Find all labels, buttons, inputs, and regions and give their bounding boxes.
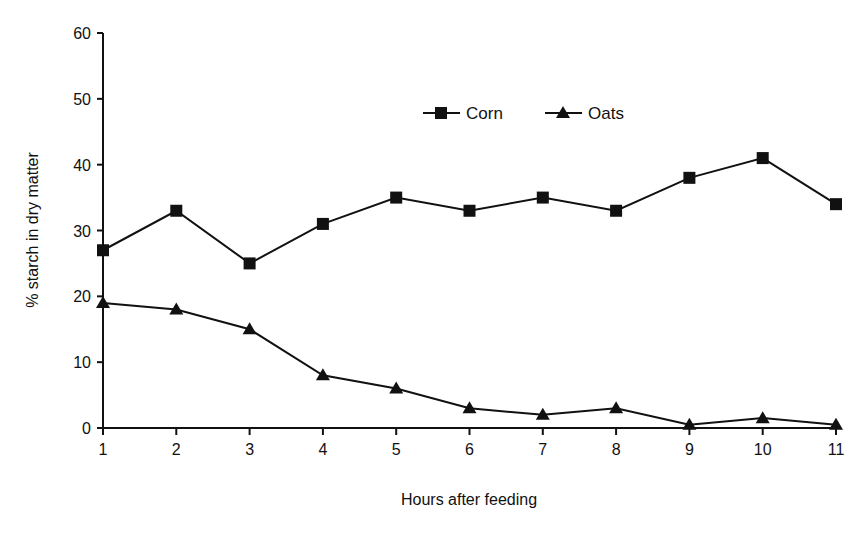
oats-marker-icon	[316, 368, 330, 380]
corn-marker-icon	[464, 205, 476, 217]
legend-label-corn: Corn	[466, 104, 503, 123]
y-tick-label: 60	[73, 25, 91, 42]
x-tick-label: 11	[828, 441, 845, 458]
x-tick-label: 2	[172, 441, 181, 458]
corn-marker-icon	[610, 205, 622, 217]
y-tick-label: 30	[73, 223, 91, 240]
y-tick-label: 0	[82, 420, 91, 437]
corn-marker-icon	[390, 192, 402, 204]
x-tick-label: 8	[612, 441, 621, 458]
x-tick-label: 9	[685, 441, 694, 458]
oats-marker-icon	[96, 296, 110, 308]
y-tick-label: 10	[73, 354, 91, 371]
corn-marker-icon	[830, 198, 842, 210]
corn-marker-icon	[757, 152, 769, 164]
x-tick-label: 1	[99, 441, 108, 458]
y-tick-label: 20	[73, 288, 91, 305]
x-tick-label: 5	[392, 441, 401, 458]
x-tick-label: 7	[538, 441, 547, 458]
x-tick-label: 10	[754, 441, 772, 458]
x-tick-label: 6	[465, 441, 474, 458]
corn-marker-icon	[683, 172, 695, 184]
x-tick-label: 4	[318, 441, 327, 458]
oats-marker-icon	[609, 401, 623, 413]
corn-marker-icon	[170, 205, 182, 217]
y-tick-label: 40	[73, 157, 91, 174]
y-axis-title: % starch in dry matter	[24, 152, 41, 308]
x-axis-title: Hours after feeding	[401, 491, 537, 508]
corn-marker-icon	[244, 257, 256, 269]
oats-marker-icon	[756, 411, 770, 423]
corn-marker-icon	[537, 192, 549, 204]
corn-marker-icon	[317, 218, 329, 230]
line-chart: 01020304050601234567891011Hours after fe…	[0, 0, 864, 533]
legend-label-oats: Oats	[588, 104, 624, 123]
y-tick-label: 50	[73, 91, 91, 108]
corn-marker-icon	[97, 244, 109, 256]
legend-corn-marker-icon	[435, 107, 447, 119]
x-tick-label: 3	[245, 441, 254, 458]
